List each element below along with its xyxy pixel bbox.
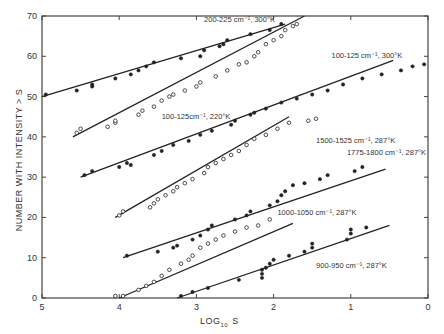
- open-data-point: [225, 69, 229, 73]
- open-data-point: [233, 230, 237, 234]
- filled-data-point: [90, 83, 93, 86]
- filled-data-point: [199, 133, 202, 136]
- open-data-point: [222, 157, 226, 161]
- filled-data-point: [422, 63, 425, 66]
- filled-data-point: [253, 111, 256, 114]
- filled-data-point: [125, 161, 128, 164]
- y-tick-label: 30: [27, 172, 37, 182]
- filled-data-point: [341, 83, 344, 86]
- open-data-point: [295, 22, 299, 26]
- open-data-point: [237, 149, 241, 153]
- filled-data-point: [160, 149, 163, 152]
- open-data-point: [245, 61, 249, 65]
- open-data-point: [171, 93, 175, 97]
- series-label: 200-225 cm⁻¹, 300°K: [204, 15, 275, 24]
- open-data-point: [164, 193, 168, 197]
- filled-data-point: [152, 153, 155, 156]
- open-data-point: [141, 109, 145, 113]
- filled-data-point: [249, 210, 252, 213]
- open-data-point: [276, 127, 280, 131]
- filled-data-point: [179, 294, 182, 297]
- series-label: 1000-1050 cm⁻¹, 287°K: [277, 208, 356, 217]
- x-axis-label-main: LOG: [200, 316, 221, 326]
- x-tick-label: 5: [39, 302, 44, 312]
- open-data-point: [268, 218, 272, 222]
- filled-data-point: [222, 43, 225, 46]
- open-data-point: [183, 181, 187, 185]
- filled-data-point: [152, 61, 155, 64]
- open-data-point: [168, 268, 172, 272]
- filled-data-point: [365, 226, 368, 229]
- open-data-point: [156, 198, 160, 202]
- open-data-point: [287, 121, 291, 125]
- filled-data-point: [353, 169, 356, 172]
- filled-data-point: [326, 89, 329, 92]
- open-data-point: [253, 54, 257, 58]
- open-data-point: [171, 189, 175, 193]
- y-tick-label: 0: [32, 293, 37, 303]
- filled-data-point: [268, 28, 271, 31]
- open-data-point: [206, 165, 210, 169]
- open-data-point: [307, 119, 311, 123]
- filled-data-point: [249, 32, 252, 35]
- filled-data-point: [90, 169, 93, 172]
- filled-data-point: [349, 228, 352, 231]
- open-data-point: [160, 99, 164, 103]
- open-data-point: [137, 113, 141, 117]
- y-tick-label: 40: [27, 132, 37, 142]
- open-data-point: [291, 24, 295, 28]
- filled-data-point: [272, 258, 275, 261]
- filled-data-point: [125, 254, 128, 257]
- open-data-point: [106, 125, 110, 129]
- open-data-point: [191, 177, 195, 181]
- y-axis-label: NUMBER WITH INTENSITY > S: [14, 89, 24, 232]
- filled-data-point: [206, 286, 209, 289]
- filled-data-point: [268, 204, 271, 207]
- filled-data-point: [349, 232, 352, 235]
- filled-data-point: [210, 224, 213, 227]
- open-data-point: [179, 262, 183, 266]
- y-tick-label: 50: [27, 92, 37, 102]
- open-data-point: [214, 161, 218, 165]
- filled-data-point: [172, 143, 175, 146]
- x-axis-label-sub: 10: [221, 322, 229, 328]
- series-label: 1775-1800 cm⁻¹, 287°K: [347, 148, 426, 157]
- open-data-point: [253, 137, 257, 141]
- filled-data-point: [218, 45, 221, 48]
- open-data-point: [121, 210, 125, 214]
- filled-data-point: [260, 276, 263, 279]
- filled-data-point: [318, 177, 321, 180]
- open-data-point: [191, 254, 195, 258]
- filled-data-point: [295, 97, 298, 100]
- filled-data-point: [264, 266, 267, 269]
- filled-data-point: [291, 184, 294, 187]
- filled-data-point: [129, 73, 132, 76]
- filled-data-point: [179, 57, 182, 60]
- filled-data-point: [83, 173, 86, 176]
- open-data-point: [272, 38, 276, 42]
- series-label: 100-125cm⁻¹, 220°K: [162, 112, 231, 121]
- filled-data-point: [233, 119, 236, 122]
- y-tick-label: 10: [27, 253, 37, 263]
- open-data-point: [152, 280, 156, 284]
- open-data-point: [245, 143, 249, 147]
- open-data-point: [256, 224, 260, 228]
- filled-data-point: [210, 129, 213, 132]
- filled-data-point: [137, 69, 140, 72]
- filled-data-point: [226, 38, 229, 41]
- y-tick-label: 70: [27, 11, 37, 21]
- open-data-point: [222, 234, 226, 238]
- y-tick-label: 60: [27, 51, 37, 61]
- filled-data-point: [199, 55, 202, 58]
- filled-data-point: [268, 262, 271, 265]
- filled-data-point: [311, 242, 314, 245]
- open-data-point: [183, 89, 187, 93]
- filled-data-point: [187, 139, 190, 142]
- filled-data-point: [361, 165, 364, 168]
- open-data-point: [237, 63, 241, 67]
- filled-data-point: [202, 49, 205, 52]
- filled-data-point: [237, 278, 240, 281]
- open-data-point: [160, 274, 164, 278]
- filled-data-point: [280, 22, 283, 25]
- series-label: 1500-1525 cm⁻¹, 287°K: [316, 136, 395, 145]
